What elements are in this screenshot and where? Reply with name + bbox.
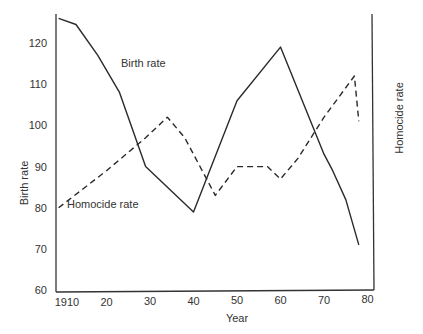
x-axis xyxy=(56,290,374,292)
x-tick-label: 30 xyxy=(144,295,156,307)
y-tick-label: 110 xyxy=(29,78,47,90)
y-tick-label: 60 xyxy=(35,284,47,296)
x-tick-label: 1910 xyxy=(55,296,79,308)
y-tick-label: 80 xyxy=(35,202,47,214)
y-axis-label-left: Birth rate xyxy=(18,161,30,206)
birth-rate-line xyxy=(59,18,359,245)
y-tick-labels: 60708090100110120 xyxy=(29,37,47,296)
x-tick-label: 20 xyxy=(100,296,112,308)
x-tick-label: 70 xyxy=(318,294,330,306)
y-tick-label: 70 xyxy=(35,243,47,255)
y-tick-label: 100 xyxy=(29,119,47,131)
x-tick-label: 40 xyxy=(187,295,199,307)
y-tick-label: 90 xyxy=(35,161,47,173)
x-tick-label: 60 xyxy=(274,294,286,306)
axes xyxy=(56,14,374,292)
y-axis-label-right: Homocide rate xyxy=(393,82,405,154)
homocide-rate-line xyxy=(59,76,359,208)
y-tick-label: 120 xyxy=(29,37,47,49)
right-axis xyxy=(372,14,374,290)
x-tick-label: 80 xyxy=(361,293,373,305)
x-tick-label: 50 xyxy=(231,294,243,306)
birth-rate-annotation: Birth rate xyxy=(121,57,166,69)
homocide-rate-annotation: Homocide rate xyxy=(67,198,139,210)
series-lines xyxy=(59,18,359,245)
chart-svg: 60708090100110120 191020304050607080 Yea… xyxy=(0,0,423,334)
x-tick-labels: 191020304050607080 xyxy=(55,293,374,308)
x-axis-label: Year xyxy=(226,312,249,324)
